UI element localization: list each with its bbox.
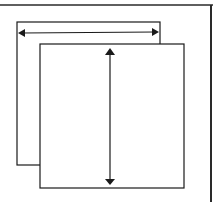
front-sheet (40, 44, 184, 188)
diagram-canvas (0, 0, 213, 202)
